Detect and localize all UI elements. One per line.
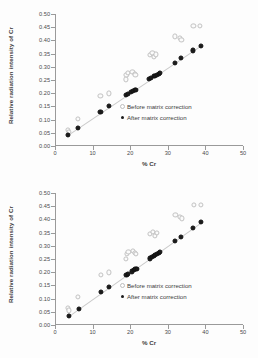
y-tick-label: 0.35: [39, 230, 50, 236]
data-point-before: [179, 37, 184, 42]
data-point-after: [178, 56, 183, 61]
y-tick: [51, 272, 55, 273]
y-tick: [51, 285, 55, 286]
y-tick: [51, 27, 55, 28]
data-point-before: [98, 93, 103, 98]
data-point-after: [66, 313, 71, 318]
legend-label-before: Before matrix correction: [127, 282, 192, 289]
y-tick-label: 0.35: [39, 51, 50, 57]
y-tick-label: 0.20: [39, 269, 50, 275]
y-tick-label: 0.25: [39, 256, 50, 262]
y-tick-label: 0.00: [39, 322, 50, 328]
x-axis-title: % Cr: [55, 339, 243, 346]
y-tick: [51, 206, 55, 207]
figure-container: Relative radiation intensity of Cr 0.000…: [0, 0, 258, 358]
data-point-after: [134, 87, 139, 92]
data-point-after: [134, 266, 139, 271]
data-point-after: [173, 239, 178, 244]
y-tick-label: 0.30: [39, 64, 50, 70]
y-tick: [51, 259, 55, 260]
y-tick: [51, 246, 55, 247]
y-tick: [51, 106, 55, 107]
y-tick: [51, 233, 55, 234]
x-tick-label: 20: [127, 150, 133, 156]
data-point-before: [98, 272, 103, 277]
x-axis-line: [55, 324, 243, 325]
y-tick: [51, 312, 55, 313]
y-tick: [51, 193, 55, 194]
data-point-before: [106, 270, 111, 275]
data-point-before: [133, 252, 138, 257]
x-axis-title: % Cr: [55, 160, 243, 167]
open-circle-icon: [118, 104, 127, 109]
data-point-before: [76, 295, 81, 300]
y-tick-label: 0.20: [39, 90, 50, 96]
x-tick-label: 50: [240, 329, 246, 335]
y-tick-label: 0.05: [39, 309, 50, 315]
y-tick-label: 0.50: [39, 11, 50, 17]
y-tick: [51, 54, 55, 55]
x-tick-label: 20: [127, 329, 133, 335]
x-tick-label: 10: [89, 150, 95, 156]
data-point-before: [154, 52, 159, 57]
data-point-before: [76, 116, 81, 121]
filled-circle-icon: [118, 295, 127, 298]
y-tick-label: 0.10: [39, 296, 50, 302]
y-tick-label: 0.15: [39, 282, 50, 288]
y-tick: [51, 299, 55, 300]
y-tick: [51, 67, 55, 68]
data-point-after: [190, 48, 195, 53]
open-circle-icon: [118, 283, 127, 288]
y-axis-title: Relative radiation intensity of Cr: [2, 0, 18, 150]
y-tick-label: 0.50: [39, 190, 50, 196]
legend-top: Before matrix correction After matrix co…: [118, 101, 248, 123]
data-point-after: [76, 126, 81, 131]
x-tick-label: 50: [240, 150, 246, 156]
y-tick-label: 0.15: [39, 103, 50, 109]
chart-panel-bottom: Relative radiation intensity of Cr 0.000…: [0, 179, 258, 358]
y-tick: [51, 14, 55, 15]
data-point-after: [178, 234, 183, 239]
y-tick-label: 0.05: [39, 130, 50, 136]
x-tick-label: 40: [202, 329, 208, 335]
legend-label-before: Before matrix correction: [127, 103, 192, 110]
legend-bottom: Before matrix correction After matrix co…: [118, 280, 248, 302]
data-point-after: [198, 219, 203, 224]
x-tick-label: 10: [89, 329, 95, 335]
data-point-after: [107, 284, 112, 289]
data-point-after: [191, 226, 196, 231]
x-tick-label: 40: [202, 150, 208, 156]
data-point-before: [179, 216, 184, 221]
y-tick: [51, 120, 55, 121]
plot-area-top: 0.000.050.100.150.200.250.300.350.400.45…: [55, 14, 243, 146]
y-axis-title: Relative radiation intensity of Cr: [2, 179, 18, 329]
y-tick: [51, 80, 55, 81]
y-tick-label: 0.30: [39, 243, 50, 249]
data-point-after: [198, 43, 203, 48]
plot-area-bottom: 0.000.050.100.150.200.250.300.350.400.45…: [55, 193, 243, 325]
chart-panel-top: Relative radiation intensity of Cr 0.000…: [0, 0, 258, 179]
y-tick: [51, 93, 55, 94]
legend-label-after: After matrix correction: [127, 293, 187, 300]
y-tick-label: 0.10: [39, 117, 50, 123]
data-point-after: [98, 290, 103, 295]
data-point-after: [106, 104, 111, 109]
x-tick-label: 0: [53, 150, 56, 156]
y-tick: [51, 219, 55, 220]
y-tick-label: 0.25: [39, 77, 50, 83]
x-tick-label: 0: [53, 329, 56, 335]
y-tick: [51, 133, 55, 134]
y-tick-label: 0.40: [39, 37, 50, 43]
legend-item-before: Before matrix correction: [118, 280, 248, 291]
data-point-after: [76, 306, 81, 311]
data-point-after: [172, 60, 177, 65]
y-tick: [51, 40, 55, 41]
y-axis-line: [55, 193, 56, 325]
data-point-before: [198, 203, 203, 208]
data-point-before: [154, 231, 159, 236]
data-point-before: [123, 256, 128, 261]
data-point-before: [191, 23, 196, 28]
data-point-after: [98, 109, 103, 114]
y-axis-line: [55, 14, 56, 146]
data-point-after: [66, 133, 71, 138]
